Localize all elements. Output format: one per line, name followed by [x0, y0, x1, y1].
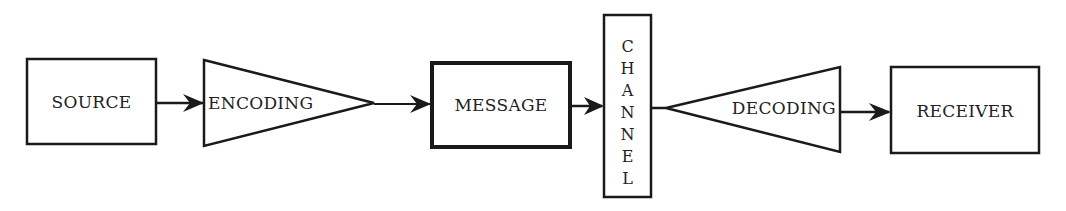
- channel-letter: C: [621, 37, 633, 56]
- encoding-label: ENCODING: [208, 93, 313, 113]
- channel-letter: N: [621, 103, 635, 122]
- receiver-label: RECEIVER: [916, 101, 1014, 121]
- arrow-source-to-encoding: [156, 94, 204, 112]
- communication-diagram: SOURCE ENCODING MESSAGE C H A N N E L: [0, 0, 1066, 211]
- decoding-node: DECODING: [666, 67, 840, 152]
- channel-letter: N: [621, 125, 635, 144]
- encoding-node: ENCODING: [204, 60, 374, 146]
- decoding-label: DECODING: [732, 98, 836, 118]
- receiver-node: RECEIVER: [891, 67, 1039, 153]
- message-label: MESSAGE: [454, 95, 547, 115]
- arrow-decoding-to-receiver: [840, 103, 891, 121]
- source-label: SOURCE: [52, 92, 132, 112]
- channel-node: C H A N N E L: [604, 15, 651, 197]
- arrow-encoding-to-message: [374, 95, 431, 113]
- channel-letter: L: [622, 169, 633, 188]
- source-node: SOURCE: [27, 59, 156, 144]
- channel-letter: H: [621, 59, 635, 78]
- channel-letter: E: [622, 147, 634, 166]
- message-node: MESSAGE: [432, 63, 570, 147]
- arrow-message-to-channel: [570, 97, 604, 115]
- channel-letter: A: [621, 81, 634, 100]
